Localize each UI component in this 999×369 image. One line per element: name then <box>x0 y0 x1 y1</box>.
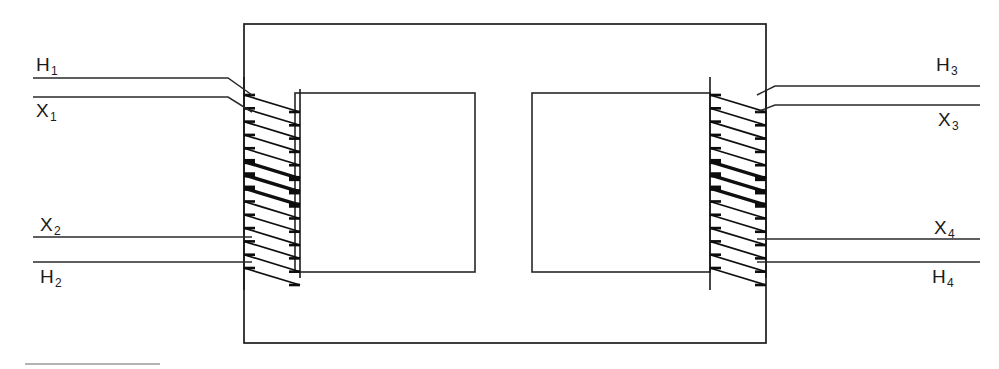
label-h4-letter: H <box>932 266 946 287</box>
left-core-window <box>295 93 475 272</box>
label-x4: X4 <box>934 218 954 237</box>
label-h2-subscript: 2 <box>55 276 62 290</box>
outer-core-rectangle <box>244 24 766 343</box>
label-x3-subscript: 3 <box>952 119 959 133</box>
label-x4-letter: X <box>934 217 947 238</box>
label-h4: H4 <box>932 267 953 286</box>
label-x1-subscript: 1 <box>50 110 57 124</box>
label-x2: X2 <box>40 215 60 234</box>
label-h3-subscript: 3 <box>951 64 958 78</box>
lead-h3 <box>757 86 980 95</box>
diagram-canvas <box>0 0 999 369</box>
label-h1-subscript: 1 <box>51 64 58 78</box>
label-x1-letter: X <box>36 100 49 121</box>
left-winding <box>244 77 300 290</box>
right-core-window <box>532 93 710 272</box>
label-h4-subscript: 4 <box>947 276 954 290</box>
lead-h1 <box>33 78 252 95</box>
label-h1: H1 <box>36 55 57 74</box>
label-h1-letter: H <box>36 54 50 75</box>
right-winding <box>710 77 766 290</box>
label-x1: X1 <box>36 101 56 120</box>
label-x2-letter: X <box>40 214 53 235</box>
lead-x1 <box>33 97 252 112</box>
label-h3-letter: H <box>936 54 950 75</box>
lead-lines <box>33 78 980 262</box>
label-h3: H3 <box>936 55 957 74</box>
label-x3-letter: X <box>938 109 951 130</box>
label-x2-subscript: 2 <box>54 224 61 238</box>
label-h2-letter: H <box>40 266 54 287</box>
transformer-winding-diagram: H1 X1 X2 H2 H3 X3 X4 H4 <box>0 0 999 369</box>
label-x4-subscript: 4 <box>948 227 955 241</box>
label-h2: H2 <box>40 267 61 286</box>
label-x3: X3 <box>938 110 958 129</box>
